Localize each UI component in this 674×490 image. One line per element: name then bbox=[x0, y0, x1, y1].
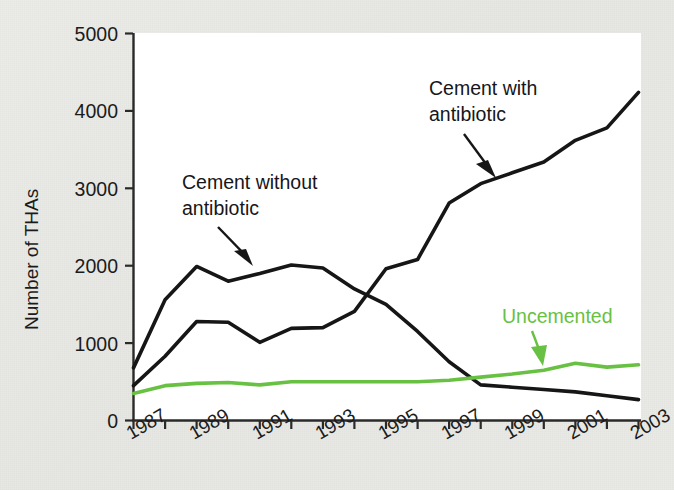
y-tick-label-4000: 4000 bbox=[75, 100, 119, 122]
y-axis-ticks bbox=[125, 34, 133, 421]
y-tick-label-1000: 1000 bbox=[75, 333, 119, 355]
annotation-cement-with-antibiotic-line1: Cement with bbox=[429, 77, 537, 99]
plot-area-background bbox=[133, 33, 641, 420]
chart-figure: 0 1000 2000 3000 4000 5000 Number of THA… bbox=[0, 0, 674, 490]
y-tick-label-5000: 5000 bbox=[75, 23, 119, 45]
annotation-cement-with-antibiotic-line2: antibiotic bbox=[429, 103, 506, 125]
y-axis-tick-labels: 0 1000 2000 3000 4000 5000 bbox=[75, 23, 119, 432]
annotation-cement-without-antibiotic-line2: antibiotic bbox=[182, 197, 259, 219]
annotation-cement-without-antibiotic-line1: Cement without bbox=[182, 171, 318, 193]
y-tick-label-2000: 2000 bbox=[75, 255, 119, 277]
y-tick-label-3000: 3000 bbox=[75, 178, 119, 200]
y-axis-title: Number of THAs bbox=[21, 189, 42, 330]
y-tick-label-0: 0 bbox=[107, 410, 118, 432]
annotation-uncemented-label: Uncemented bbox=[502, 305, 613, 327]
line-chart: 0 1000 2000 3000 4000 5000 Number of THA… bbox=[0, 0, 674, 490]
